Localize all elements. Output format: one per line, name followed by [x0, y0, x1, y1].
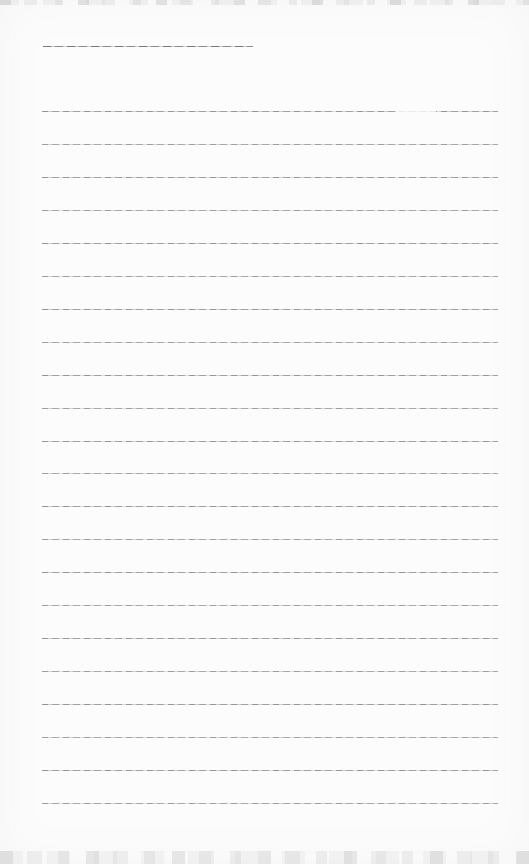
- ruled-line: [42, 506, 498, 507]
- scan-noise-top: [0, 0, 529, 5]
- ruled-line: [42, 605, 498, 606]
- ruled-line: [42, 210, 498, 211]
- ruled-line: [42, 539, 498, 540]
- ruled-line: [42, 111, 498, 112]
- title-underline-line: [43, 46, 253, 47]
- ruled-line: [42, 276, 498, 277]
- ruled-line: [42, 572, 498, 573]
- ruled-line: [42, 473, 498, 474]
- ruled-line: [42, 342, 498, 343]
- ruled-line: [42, 408, 498, 409]
- ruled-line: [42, 375, 498, 376]
- ruled-line: [42, 309, 498, 310]
- ruled-line: [42, 803, 498, 804]
- ruled-line: [42, 144, 498, 145]
- ruled-line: [42, 737, 498, 738]
- ruled-line: [42, 638, 498, 639]
- ruled-line: [42, 177, 498, 178]
- ruled-line: [42, 704, 498, 705]
- ruled-line: [42, 770, 498, 771]
- ruled-line: [42, 671, 498, 672]
- scan-noise-bottom: [0, 851, 529, 864]
- ruled-line: [42, 243, 498, 244]
- notebook-page: [0, 0, 529, 864]
- ruled-line: [42, 441, 498, 442]
